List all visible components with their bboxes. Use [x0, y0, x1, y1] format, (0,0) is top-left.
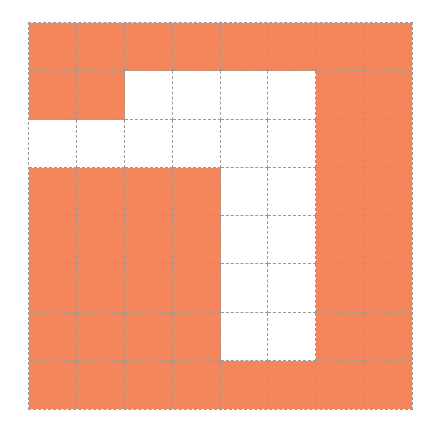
grid-cell-filled: [29, 216, 77, 264]
grid-cell-filled: [316, 216, 364, 264]
grid-cell-empty: [173, 71, 221, 119]
grid-cell-filled: [364, 120, 412, 168]
grid-cell-filled: [29, 313, 77, 361]
grid-cell-filled: [173, 23, 221, 71]
grid-cell-filled: [29, 361, 77, 409]
grid-cell-filled: [364, 216, 412, 264]
grid-cell-filled: [77, 168, 125, 216]
grid-cell-filled: [125, 216, 173, 264]
grid-cell-filled: [77, 361, 125, 409]
grid-cell-filled: [125, 313, 173, 361]
grid-cell-empty: [77, 120, 125, 168]
grid-cell-filled: [268, 23, 316, 71]
grid-cell-empty: [268, 71, 316, 119]
grid-cell-empty: [268, 168, 316, 216]
grid-cell-filled: [316, 23, 364, 71]
grid-cell-filled: [316, 71, 364, 119]
grid-cell-empty: [268, 216, 316, 264]
grid-cell-filled: [29, 71, 77, 119]
grid-cell-empty: [125, 71, 173, 119]
grid-cell-empty: [173, 120, 221, 168]
grid-cell-filled: [316, 264, 364, 312]
grid-cell-filled: [316, 168, 364, 216]
grid-cell-filled: [125, 264, 173, 312]
grid-cell-empty: [221, 264, 269, 312]
grid-cell-empty: [268, 264, 316, 312]
grid-cell-filled: [77, 216, 125, 264]
grid-cell-filled: [364, 168, 412, 216]
grid-cell-filled: [316, 361, 364, 409]
grid-cell-filled: [364, 264, 412, 312]
grid-cell-filled: [173, 216, 221, 264]
grid-cell-filled: [77, 71, 125, 119]
grid-cell-empty: [221, 120, 269, 168]
grid-cell-filled: [364, 361, 412, 409]
grid-cell-filled: [77, 313, 125, 361]
grid-cell-filled: [221, 23, 269, 71]
grid-cell-filled: [125, 23, 173, 71]
grid-cell-filled: [29, 23, 77, 71]
grid-cell-filled: [268, 361, 316, 409]
grid-cell-empty: [221, 313, 269, 361]
grid-cell-empty: [221, 216, 269, 264]
grid-cell-filled: [125, 168, 173, 216]
grid-cell-empty: [268, 313, 316, 361]
grid-cell-filled: [173, 361, 221, 409]
grid-cell-filled: [29, 264, 77, 312]
grid-cell-filled: [221, 361, 269, 409]
grid-cell-empty: [221, 71, 269, 119]
grid-cell-filled: [364, 23, 412, 71]
grid-cell-filled: [29, 168, 77, 216]
grid-cell-filled: [364, 313, 412, 361]
grid-cell-filled: [316, 120, 364, 168]
grid-cell-filled: [125, 361, 173, 409]
grid-cell-empty: [268, 120, 316, 168]
grid-cell-filled: [316, 313, 364, 361]
grid-cell-empty: [29, 120, 77, 168]
grid-cell-filled: [77, 23, 125, 71]
grid-cell-filled: [173, 264, 221, 312]
grid-cell-filled: [173, 313, 221, 361]
grid-cell-empty: [221, 168, 269, 216]
grid-cell-filled: [77, 264, 125, 312]
grid-cell-filled: [364, 71, 412, 119]
grid-cell-filled: [173, 168, 221, 216]
grid-cell-empty: [125, 120, 173, 168]
pixel-grid: [28, 22, 413, 410]
